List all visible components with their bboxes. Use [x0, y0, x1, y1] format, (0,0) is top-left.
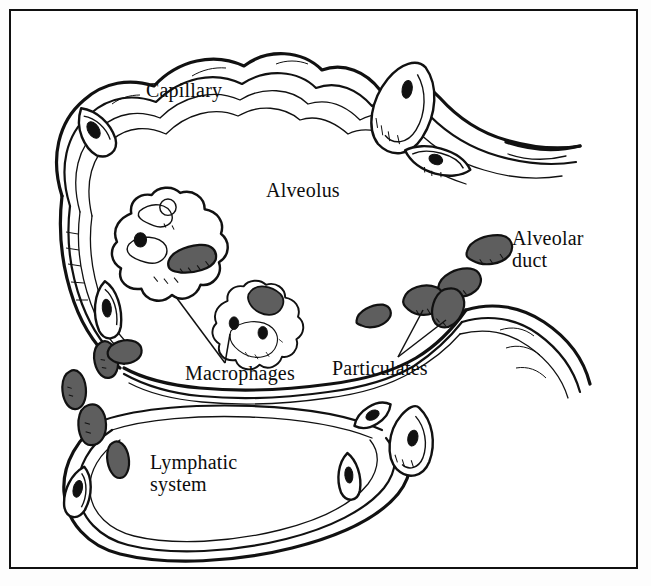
epithelial-cell: [384, 402, 441, 479]
epithelial-cell: [350, 397, 396, 433]
label-alveolar-duct: Alveolar duct: [512, 228, 584, 271]
leader-particulate-a: [398, 310, 423, 357]
label-lymphatic-system: Lymphatic system: [150, 452, 237, 495]
leader-particulate-b: [398, 320, 446, 357]
label-lymphatic-line1: Lymphatic: [150, 452, 237, 474]
label-capillary: Capillary: [146, 80, 222, 102]
label-alveolus: Alveolus: [266, 180, 340, 202]
label-lymphatic-line2: system: [150, 474, 237, 496]
epithelial-cell: [337, 452, 362, 500]
macrophage-upper: [112, 188, 228, 301]
label-macrophages: Macrophages: [185, 363, 295, 385]
label-alveolar-duct-line1: Alveolar: [512, 228, 584, 250]
epithelial-cell: [357, 53, 453, 163]
label-alveolar-duct-line2: duct: [512, 250, 584, 272]
alveolus-diagram: .ink { fill: none; stroke: #111111; stro…: [0, 0, 651, 586]
particulate: [353, 301, 393, 332]
figure-page: .ink { fill: none; stroke: #111111; stro…: [0, 0, 651, 586]
particulate: [103, 439, 133, 480]
particulate: [464, 232, 515, 269]
particulate: [59, 369, 89, 411]
label-particulates: Particulates: [332, 358, 428, 380]
epithelial-cell: [92, 280, 124, 340]
